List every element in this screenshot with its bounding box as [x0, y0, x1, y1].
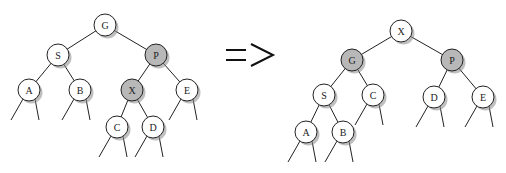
- tree-node-s: S: [313, 84, 338, 109]
- tree-node-e: E: [176, 79, 201, 104]
- node-label: B: [77, 85, 84, 96]
- node-label: X: [397, 26, 405, 37]
- tree-node-a: A: [18, 79, 43, 104]
- node-label: E: [184, 85, 190, 96]
- node-label: P: [153, 50, 159, 61]
- tree-node-x: X: [390, 20, 415, 45]
- node-label: D: [430, 92, 437, 103]
- node-label: A: [25, 85, 33, 96]
- node-label: X: [128, 85, 136, 96]
- subtree-edge-left: [325, 141, 337, 162]
- subtree-edge-left: [135, 136, 147, 157]
- node-label: S: [321, 90, 327, 101]
- subtree-edge-left: [416, 106, 428, 127]
- subtree-edge-left: [62, 99, 74, 120]
- tree-node-b: B: [69, 79, 94, 104]
- tree-node-s: S: [47, 44, 72, 69]
- subtree-edge-left: [99, 136, 111, 157]
- tree-rotation-diagram: GSPABXECD XGPSCDEAB: [0, 0, 506, 173]
- tree-node-a: A: [295, 121, 320, 146]
- subtree-edge-left: [288, 141, 300, 162]
- subtree-edge-left: [169, 99, 181, 120]
- tree-node-p: P: [441, 49, 466, 74]
- tree-node-c: C: [106, 116, 131, 141]
- node-label: B: [340, 127, 347, 138]
- node-label: E: [480, 92, 486, 103]
- node-label: G: [101, 20, 108, 31]
- node-label: P: [449, 55, 455, 66]
- tree-node-e: E: [472, 86, 497, 111]
- node-label: A: [302, 127, 310, 138]
- node-label: C: [114, 122, 121, 133]
- node-label: S: [55, 50, 61, 61]
- tree-node-g: G: [94, 14, 119, 39]
- tree-node-d: D: [142, 116, 167, 141]
- tree-before: GSPABXECD: [11, 14, 201, 157]
- tree-node-x: X: [121, 79, 146, 104]
- tree-node-c: C: [362, 84, 387, 109]
- arrow-chevron-icon: [251, 44, 273, 66]
- tree-after: XGPSCDEAB: [288, 20, 497, 162]
- transform-arrow: [226, 44, 273, 66]
- node-label: D: [149, 122, 156, 133]
- subtree-edge-left: [465, 106, 477, 127]
- node-label: G: [348, 55, 355, 66]
- node-label: C: [370, 90, 377, 101]
- subtree-edge-left: [11, 99, 23, 120]
- tree-node-d: D: [423, 86, 448, 111]
- tree-node-b: B: [332, 121, 357, 146]
- subtree-edge-left: [355, 104, 367, 125]
